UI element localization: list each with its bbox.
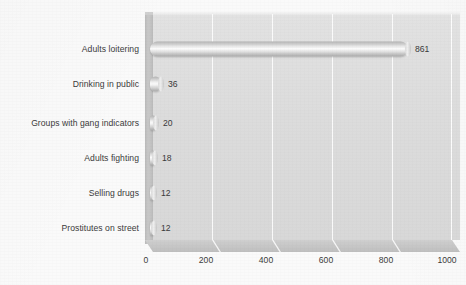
xtick-label-1000: 1000: [437, 255, 456, 265]
axis-left-wall-cap: [145, 12, 153, 15]
xtick-label-600: 600: [319, 255, 333, 265]
bar-cap: [158, 77, 164, 92]
gridline-1000: [451, 14, 452, 240]
category-label: Drinking in public: [0, 79, 139, 89]
bar-prostitutes-on-street[interactable]: [150, 221, 154, 236]
xtick-label-400: 400: [259, 255, 273, 265]
bar-cap: [153, 116, 159, 131]
bar-value-label: 12: [161, 188, 171, 198]
bar-selling-drugs[interactable]: [150, 186, 154, 201]
bar-value-label: 36: [168, 79, 178, 89]
bar-adults-fighting[interactable]: [150, 151, 155, 166]
category-axis-labels: Adults loitering Drinking in public Grou…: [0, 14, 139, 240]
xtick-label-200: 200: [199, 255, 213, 265]
bar-value-label: 18: [162, 153, 172, 163]
bar-groups-with-gang-indicators[interactable]: [150, 116, 156, 131]
bar-value-label: 20: [163, 118, 173, 128]
plot-area: 861 36 20 18 12 12 0 200 400 600 800 100…: [140, 12, 460, 256]
category-label: Adults loitering: [0, 44, 139, 54]
category-label: Adults fighting: [0, 153, 139, 163]
bar-adults-loitering[interactable]: [150, 42, 408, 57]
category-label: Groups with gang indicators: [0, 118, 139, 128]
bar-drinking-in-public[interactable]: [150, 77, 161, 92]
bar-value-label: 861: [415, 44, 429, 54]
axis-floor: [145, 240, 460, 252]
bar-chart: Adults loitering Drinking in public Grou…: [0, 0, 466, 285]
xtick-label-0: 0: [144, 255, 149, 265]
bar-cap: [151, 221, 157, 236]
xtick-label-800: 800: [379, 255, 393, 265]
category-label: Prostitutes on street: [0, 223, 139, 233]
category-label: Selling drugs: [0, 188, 139, 198]
bar-cap: [151, 186, 157, 201]
plot-panel-top-edge: [152, 12, 460, 15]
bar-value-label: 12: [161, 223, 171, 233]
